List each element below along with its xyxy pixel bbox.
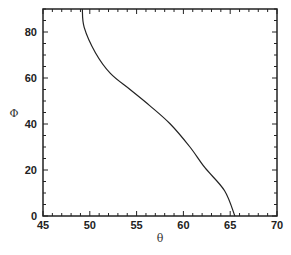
line-chart: 455055606570020406080θΦ [0,0,291,255]
y-tick-label: 20 [25,164,37,176]
x-tick-label: 65 [224,219,236,231]
x-tick-label: 60 [177,219,189,231]
data-curve [82,9,235,216]
x-axis-label: θ [157,232,164,245]
plot-frame [43,9,277,216]
y-tick-label: 80 [25,26,37,38]
x-tick-label: 55 [130,219,142,231]
plot-area: 455055606570020406080θΦ [9,9,283,245]
x-tick-label: 45 [37,219,49,231]
x-tick-label: 50 [84,219,96,231]
y-tick-label: 40 [25,118,37,130]
y-tick-label: 60 [25,72,37,84]
x-tick-label: 70 [271,219,283,231]
y-axis-label: Φ [9,107,18,120]
y-tick-label: 0 [31,210,37,222]
